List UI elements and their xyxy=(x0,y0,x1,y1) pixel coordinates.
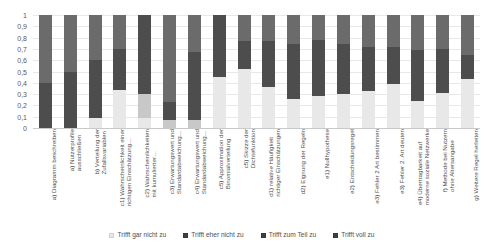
bar-segment xyxy=(337,44,350,94)
x-axis-tick-label-text: a) Nutzerprofile ausschließen xyxy=(69,129,82,171)
bar-column xyxy=(387,15,400,128)
bar-segment xyxy=(436,15,449,49)
bar-column xyxy=(312,15,325,128)
bar-segment xyxy=(138,118,151,128)
bar-segment xyxy=(436,49,449,93)
bar-stack xyxy=(163,15,176,128)
bar-segment xyxy=(411,50,424,101)
bar-segment xyxy=(238,15,251,41)
legend-swatch-icon xyxy=(183,233,188,238)
bar-column xyxy=(362,15,375,128)
x-axis-tick-label: g) Weitere Regel herleiten xyxy=(455,129,480,223)
legend-label: Trifft eher nicht zu xyxy=(191,231,243,239)
y-axis-tick: 0,1 xyxy=(17,113,27,120)
bar-segment xyxy=(312,96,325,128)
x-axis-tick-label-text: f) Methode bei Nutzern ohne Altersangabe xyxy=(442,129,455,192)
y-axis-tick: 0,4 xyxy=(17,79,27,86)
bar-stack xyxy=(312,15,325,128)
legend-label: Trifft voll zu xyxy=(341,231,374,239)
legend-swatch-icon xyxy=(333,233,338,238)
bar-segment xyxy=(238,69,251,128)
bar-segment xyxy=(387,84,400,128)
bar-segment xyxy=(89,15,102,60)
bar-segment xyxy=(262,87,275,128)
bar-stack xyxy=(411,15,424,128)
bar-segment xyxy=(188,15,201,52)
bar-column xyxy=(337,15,350,128)
bar-segment xyxy=(362,91,375,128)
bar-segment xyxy=(89,60,102,118)
x-axis-tick-label: e3) Fehler 2 Art bestimmen xyxy=(356,129,381,223)
bar-segment xyxy=(64,72,77,129)
bar-segment xyxy=(461,55,474,80)
bar-column xyxy=(89,15,102,128)
x-axis-tick-label-text: d2) Eignung der Regeln xyxy=(300,129,307,194)
bar-segment xyxy=(113,15,126,49)
x-axis-tick-label-text: e3) Fehler 2 Art bestimmen xyxy=(374,129,381,204)
bar-stack xyxy=(362,15,375,128)
y-axis-tick: 0 xyxy=(23,125,27,132)
bar-stack xyxy=(213,15,226,128)
bar-segment xyxy=(387,15,400,47)
bars-layer xyxy=(33,15,480,128)
x-axis-tick-label-text: c4) Erwartungswert und Standardabweichun… xyxy=(194,129,207,194)
x-axis-tick-label: b) Verteilung der Zufallsvariablen xyxy=(83,129,108,223)
bar-column xyxy=(238,15,251,128)
stacked-bar-chart: 10,90,80,70,60,50,40,30,20,10 a) Diagram… xyxy=(0,0,484,252)
bar-segment xyxy=(163,102,176,120)
bar-segment xyxy=(213,15,226,77)
bar-stack xyxy=(436,15,449,128)
bar-stack xyxy=(188,15,201,128)
bar-stack xyxy=(113,15,126,128)
bar-segment xyxy=(436,93,449,128)
x-axis-tick-label-text: d1) relative Häufigkeit richtiger Einsch… xyxy=(268,129,281,197)
x-axis-tick-label-text: a) Diagramm beschreiben xyxy=(51,129,58,200)
bar-column xyxy=(39,15,52,128)
legend-item[interactable]: Trifft eher nicht zu xyxy=(183,231,243,239)
bar-segment xyxy=(312,40,325,97)
bar-segment xyxy=(113,90,126,128)
x-axis-tick-label: c5) Approximation der Binomialverteilung xyxy=(207,129,232,223)
x-axis-labels: a) Diagramm beschreibena) Nutzerprofile … xyxy=(33,129,480,225)
bar-segment xyxy=(89,118,102,128)
x-axis-tick-label: c4) Erwartungswert und Standardabweichun… xyxy=(182,129,207,223)
y-axis-tick: 0,2 xyxy=(17,102,27,109)
legend-swatch-icon xyxy=(109,233,114,238)
x-axis-tick-label: a) Diagramm beschreiben xyxy=(33,129,58,223)
bar-segment xyxy=(411,101,424,128)
bar-segment xyxy=(39,15,52,83)
bar-stack xyxy=(461,15,474,128)
bar-column xyxy=(461,15,474,128)
bar-stack xyxy=(337,15,350,128)
bar-stack xyxy=(238,15,251,128)
x-axis-tick-label: c3) Erwartungswert und Standardabweichun… xyxy=(157,129,182,223)
bar-segment xyxy=(213,77,226,128)
y-axis-tick: 1 xyxy=(23,12,27,19)
x-axis-tick-label-text: c1) Wahrscheinlichkeit einer richtigen E… xyxy=(119,129,132,206)
bar-column xyxy=(64,15,77,128)
bar-segment xyxy=(287,99,300,128)
legend-swatch-icon xyxy=(261,233,266,238)
legend-item[interactable]: Trifft gar nicht zu xyxy=(109,231,166,239)
bar-stack xyxy=(287,15,300,128)
bar-segment xyxy=(163,120,176,128)
bar-stack xyxy=(89,15,102,128)
bar-column xyxy=(138,15,151,128)
bar-column xyxy=(213,15,226,128)
legend-item[interactable]: Trifft zum Teil zu xyxy=(261,231,317,239)
x-axis-tick-label: e1) Nullhypothese xyxy=(306,129,331,223)
bar-column xyxy=(113,15,126,128)
y-axis-tick: 0,7 xyxy=(17,45,27,52)
bar-segment xyxy=(411,15,424,50)
bar-segment xyxy=(337,94,350,128)
bar-segment xyxy=(387,47,400,84)
bar-column xyxy=(188,15,201,128)
legend-item[interactable]: Trifft voll zu xyxy=(333,231,374,239)
bar-stack xyxy=(138,15,151,128)
x-axis-tick-label: e4) Übertragbarkeit auf moderne soziale … xyxy=(406,129,431,223)
x-axis-tick-label-text: c3) Erwartungswert und Standardabweichun… xyxy=(169,129,182,194)
x-axis-tick-label: c5) Skizze der Dichtefunktion xyxy=(232,129,257,223)
bar-stack xyxy=(387,15,400,128)
bar-stack xyxy=(262,15,275,128)
x-axis-tick-label-text: c5) Approximation der Binomialverteilung xyxy=(218,129,231,189)
